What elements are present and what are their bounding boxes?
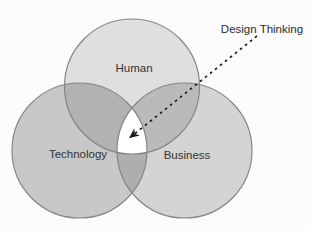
design-thinking-label: Design Thinking xyxy=(221,23,303,35)
venn-diagram-figure: Human Technology Business Design Thinkin… xyxy=(0,0,311,231)
technology-label: Technology xyxy=(49,148,107,160)
human-label: Human xyxy=(115,62,152,74)
business-label: Business xyxy=(164,149,211,161)
venn-diagram: Human Technology Business Design Thinkin… xyxy=(0,0,311,231)
